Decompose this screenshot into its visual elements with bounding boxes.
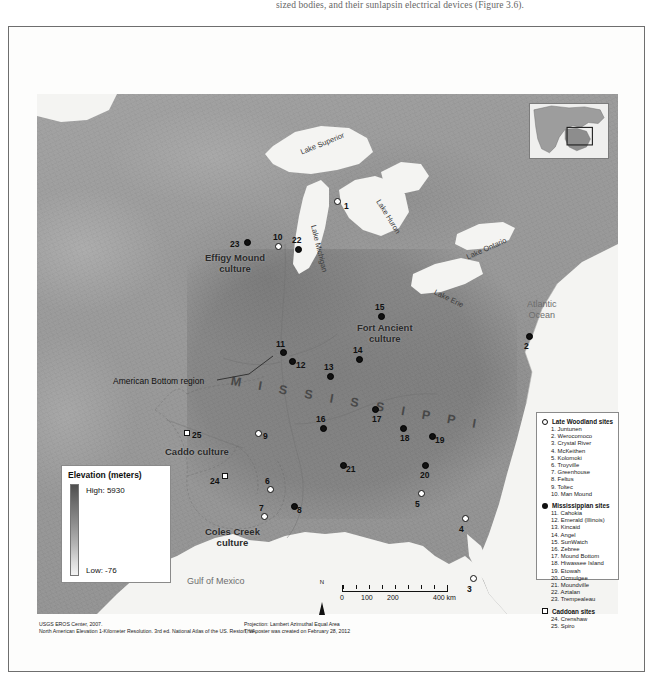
site-label-10: 10 — [273, 232, 282, 242]
site-label-18: 18 — [400, 433, 409, 443]
legend-site-item: 13. Kincaid — [542, 524, 614, 531]
elevation-color-ramp — [70, 484, 79, 576]
legend-site-item: 25. Spiro — [542, 623, 614, 630]
scale-bar-labels: 0 100 200 400 km — [335, 594, 470, 604]
scale-tick-0: 0 — [340, 594, 344, 601]
american-bottom-label: American Bottom region — [113, 376, 204, 386]
site-marker-15[interactable] — [378, 313, 385, 320]
site-label-12: 12 — [296, 360, 305, 370]
legend-site-item: 24. Crenshaw — [542, 616, 614, 623]
site-label-9: 9 — [263, 431, 268, 441]
legend-site-item: 16. Zebree — [542, 546, 614, 553]
scale-tick-200: 200 — [387, 594, 399, 601]
legend-site-list: 11. Cahokia12. Emerald (Illinois)13. Kin… — [542, 510, 614, 604]
site-marker-7[interactable] — [261, 513, 268, 520]
cad-symbol-icon — [542, 608, 548, 614]
legend-site-item: 8. Feltus — [542, 476, 614, 483]
credits-left-line2: North American Elevation 1-Kilometer Res… — [39, 628, 257, 635]
site-label-1: 1 — [344, 201, 349, 211]
site-label-11: 11 — [276, 339, 285, 349]
site-label-24: 24 — [210, 476, 219, 486]
site-marker-10[interactable] — [275, 243, 282, 250]
site-marker-2[interactable] — [526, 333, 533, 340]
site-label-8: 8 — [297, 505, 302, 515]
legend-site-list: 24. Crenshaw25. Spiro — [542, 616, 614, 630]
legend-site-item: 1. Juntunen — [542, 426, 614, 433]
site-label-16: 16 — [316, 414, 325, 424]
site-marker-16[interactable] — [320, 425, 327, 432]
scale-bar-group: N 0 100 200 400 km — [315, 577, 465, 611]
scale-bar-track — [342, 585, 448, 592]
legend-group-header: Late Woodland sites — [542, 418, 614, 425]
site-marker-13[interactable] — [327, 373, 334, 380]
legend-site-list: 1. Juntunen2. Werocomoco3. Crystal River… — [542, 426, 614, 498]
legend-site-item: 5. Kolomoki — [542, 455, 614, 462]
legend-site-item: 9. Toltec — [542, 484, 614, 491]
site-label-20: 20 — [420, 470, 429, 480]
northern-water-shape — [37, 94, 117, 122]
legend-group-miss: Mississippian sites11. Cahokia12. Emeral… — [542, 502, 614, 604]
site-marker-22[interactable] — [295, 246, 302, 253]
legend-group-title: Mississippian sites — [552, 502, 609, 509]
site-marker-3[interactable] — [470, 575, 477, 582]
site-label-13: 13 — [324, 362, 333, 372]
legend-group-title: Late Woodland sites — [552, 418, 613, 425]
elevation-low-label: Low: -76 — [86, 566, 117, 575]
legend-site-item: 23. Trempealeau — [542, 596, 614, 603]
legend-site-item: 18. Hiwassee Island — [542, 560, 614, 567]
legend-group-lw: Late Woodland sites1. Juntunen2. Werocom… — [542, 418, 614, 498]
site-legend-panel: Late Woodland sites1. Juntunen2. Werocom… — [536, 412, 619, 580]
credits-left-line1: USGS EROS Center, 2007. — [39, 621, 257, 628]
credits-right: Projection: Lambert Azimuthal Equal Area… — [244, 621, 350, 635]
site-label-3: 3 — [467, 584, 472, 594]
georgian-bay-shape — [381, 162, 429, 194]
scale-tick-400: 400 km — [433, 594, 456, 601]
site-marker-4[interactable] — [462, 515, 469, 522]
site-marker-23[interactable] — [244, 239, 251, 246]
site-marker-5[interactable] — [418, 490, 425, 497]
north-arrow-triangle — [319, 585, 325, 615]
lw-symbol-icon — [542, 419, 548, 425]
site-marker-24[interactable] — [222, 473, 228, 479]
site-marker-18[interactable] — [400, 425, 407, 432]
site-label-19: 19 — [435, 435, 444, 445]
inset-vector — [530, 104, 608, 159]
legend-site-item: 19. Etowah — [542, 568, 614, 575]
site-marker-14[interactable] — [356, 356, 363, 363]
site-marker-9[interactable] — [255, 430, 262, 437]
region-label-effigy-mound: Effigy Mound culture — [205, 252, 265, 274]
region-label-coles-creek: Coles Creek culture — [205, 526, 260, 548]
site-marker-11[interactable] — [280, 349, 287, 356]
elevation-legend-title: Elevation (meters) — [68, 470, 142, 480]
legend-group-header: Mississippian sites — [542, 502, 614, 509]
site-label-22: 22 — [292, 235, 301, 245]
site-marker-17[interactable] — [372, 406, 379, 413]
north-arrow: N — [315, 579, 329, 603]
region-label-caddo: Caddo culture — [165, 446, 229, 457]
elevation-high-label: High: 5930 — [86, 486, 125, 495]
gulf-of-mexico-label: Gulf of Mexico — [187, 576, 245, 587]
legend-site-item: 17. Mound Bottom — [542, 553, 614, 560]
legend-site-item: 10. Man Mound — [542, 491, 614, 498]
credits-right-line1: Projection: Lambert Azimuthal Equal Area — [244, 621, 350, 628]
elevation-legend: Elevation (meters) High: 5930 Low: -76 — [61, 465, 171, 583]
region-label-fort-ancient: Fort Ancient culture — [357, 322, 413, 344]
lake-superior-shape — [265, 126, 373, 174]
credits-left: USGS EROS Center, 2007. North American E… — [39, 621, 257, 635]
legend-site-item: 3. Crystal River — [542, 440, 614, 447]
legend-site-item: 22. Aztalan — [542, 589, 614, 596]
site-marker-1[interactable] — [334, 198, 341, 205]
site-label-25: 25 — [192, 430, 201, 440]
site-marker-25[interactable] — [184, 430, 190, 436]
legend-site-item: 12. Emerald (Illinois) — [542, 517, 614, 524]
inset-locator-map — [529, 103, 609, 159]
site-marker-12[interactable] — [289, 358, 296, 365]
site-marker-20[interactable] — [422, 462, 429, 469]
poster-frame: Lake Superior Lake Michigan Lake Huron L… — [8, 26, 645, 672]
site-marker-6[interactable] — [267, 486, 274, 493]
legend-group-header: Caddoan sites — [542, 608, 614, 615]
site-label-5: 5 — [415, 499, 420, 509]
site-label-14: 14 — [353, 345, 362, 355]
site-label-17: 17 — [372, 414, 381, 424]
legend-site-item: 7. Greenhouse — [542, 469, 614, 476]
